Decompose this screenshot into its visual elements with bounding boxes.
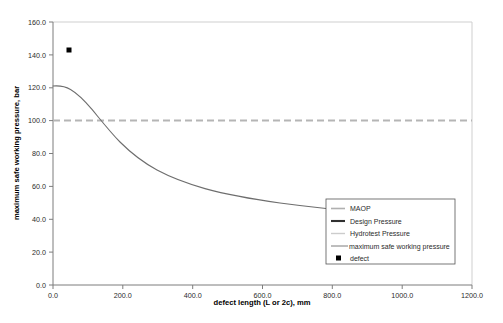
y-tick-label: 160.0 [28, 18, 46, 27]
legend-label: defect [350, 255, 369, 262]
legend-item-max-safe-working-pressure[interactable]: maximum safe working pressure [331, 243, 450, 251]
x-tick-label: 200.0 [114, 291, 132, 300]
y-axis-title: maximum safe working pressure, bar [12, 86, 21, 220]
chart-svg: 160.0 140.0 120.0 100.0 80.0 60.0 40.0 2… [0, 0, 503, 323]
legend-item-defect[interactable]: defect [336, 255, 369, 262]
chart-container: 160.0 140.0 120.0 100.0 80.0 60.0 40.0 2… [0, 0, 503, 323]
legend-label: maximum safe working pressure [349, 243, 450, 251]
y-tick-label: 20.0 [32, 248, 46, 257]
x-tick-label: 0.0 [48, 291, 58, 300]
x-tick-label: 400.0 [184, 291, 202, 300]
y-tick-label: 80.0 [32, 149, 46, 158]
legend-label: MAOP [350, 205, 371, 212]
y-tick-label: 0.0 [36, 281, 46, 290]
square-marker-swatch-icon [336, 256, 341, 261]
y-tick-label: 100.0 [28, 116, 46, 125]
chart-legend: MAOP Design Pressure Hydrotest Pressure … [326, 199, 455, 264]
y-tick-label: 40.0 [32, 215, 46, 224]
legend-label: Hydrotest Pressure [350, 230, 410, 238]
y-tick-label: 60.0 [32, 182, 46, 191]
defect-marker [67, 48, 72, 53]
y-tick-label: 120.0 [28, 83, 46, 92]
x-tick-label: 1000.0 [391, 291, 413, 300]
x-tick-label: 800.0 [323, 291, 341, 300]
legend-label: Design Pressure [350, 218, 402, 226]
x-axis-title: defect length (L or 2c), mm [214, 298, 311, 307]
y-tick-label: 140.0 [28, 51, 46, 60]
x-tick-label: 1200.0 [461, 291, 483, 300]
chart-background [0, 0, 503, 323]
